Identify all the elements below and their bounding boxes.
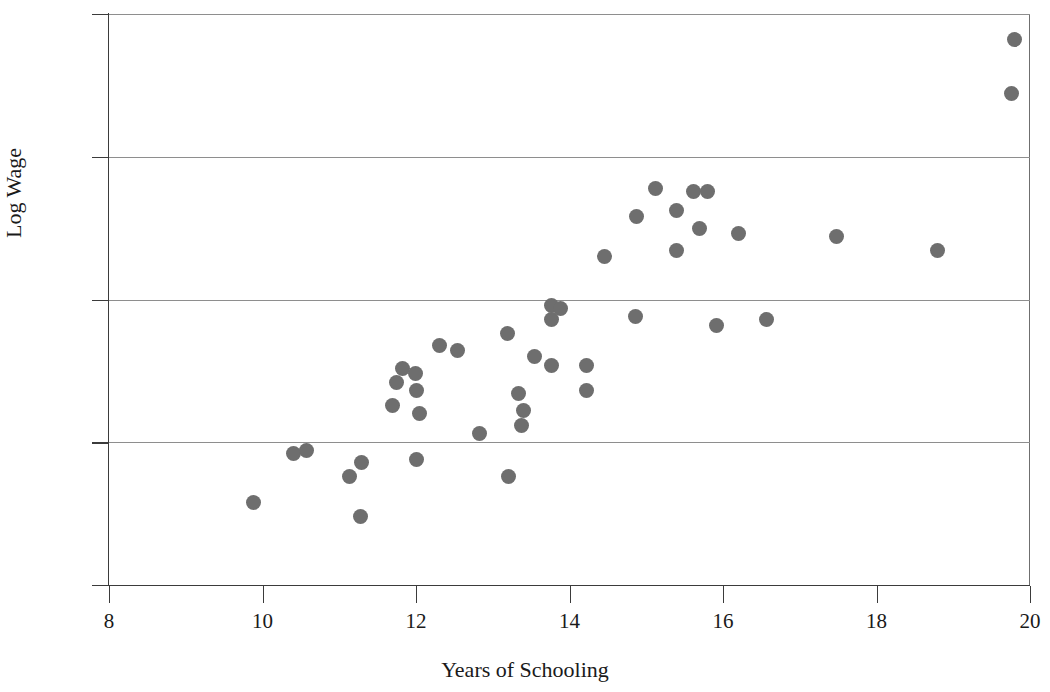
x-axis-tick xyxy=(570,586,571,603)
data-point xyxy=(516,403,531,418)
x-axis-tick xyxy=(723,586,724,603)
data-point xyxy=(759,312,774,327)
data-point xyxy=(544,358,559,373)
data-point xyxy=(342,469,357,484)
data-point xyxy=(500,326,515,341)
data-point xyxy=(472,426,487,441)
data-point xyxy=(354,455,369,470)
data-point xyxy=(629,209,644,224)
x-axis-tick xyxy=(877,586,878,603)
x-axis-tick-label: 14 xyxy=(540,611,600,632)
data-point xyxy=(385,398,400,413)
scatter-plot-figure: 22.533.54 8101214161820 Log Wage Years o… xyxy=(0,0,1050,692)
data-point xyxy=(628,309,643,324)
data-point xyxy=(353,509,368,524)
data-point xyxy=(692,221,707,236)
data-point xyxy=(450,343,465,358)
data-point xyxy=(597,249,612,264)
data-point xyxy=(930,243,945,258)
x-axis-tick-label: 10 xyxy=(233,611,293,632)
data-point xyxy=(1004,86,1019,101)
data-point xyxy=(299,443,314,458)
y-axis-tick xyxy=(92,300,109,301)
x-axis-tick xyxy=(109,586,110,603)
data-point xyxy=(686,184,701,199)
y-axis-tick xyxy=(92,14,109,15)
gridline xyxy=(109,300,1030,301)
gridline xyxy=(109,14,1030,15)
y-axis-tick xyxy=(92,442,109,443)
data-point xyxy=(648,181,663,196)
data-point xyxy=(527,349,542,364)
data-point xyxy=(432,338,447,353)
data-point xyxy=(579,383,594,398)
plot-area xyxy=(109,14,1030,585)
x-axis-tick xyxy=(416,586,417,603)
y-axis-tick xyxy=(92,157,109,158)
x-axis-tick-label: 16 xyxy=(693,611,753,632)
data-point xyxy=(389,375,404,390)
x-axis-tick-label: 12 xyxy=(386,611,446,632)
gridline xyxy=(109,442,1030,443)
gridline xyxy=(109,157,1030,158)
data-point xyxy=(669,243,684,258)
data-point xyxy=(409,383,424,398)
data-point xyxy=(1007,32,1022,47)
y-axis-tick xyxy=(92,585,109,586)
x-axis-tick-label: 20 xyxy=(1000,611,1050,632)
x-axis-tick-label: 18 xyxy=(847,611,907,632)
data-point xyxy=(669,203,684,218)
x-axis-tick xyxy=(263,586,264,603)
data-point xyxy=(246,495,261,510)
data-point xyxy=(579,358,594,373)
data-point xyxy=(700,184,715,199)
data-point xyxy=(409,452,424,467)
data-point xyxy=(731,226,746,241)
data-point xyxy=(514,418,529,433)
x-axis-label: Years of Schooling xyxy=(0,659,1050,681)
data-point xyxy=(501,469,516,484)
x-axis-tick-label: 8 xyxy=(79,611,139,632)
data-point xyxy=(511,386,526,401)
y-axis-label: Log Wage xyxy=(3,148,25,238)
data-point xyxy=(408,366,423,381)
data-point xyxy=(553,301,568,316)
data-point xyxy=(709,318,724,333)
data-point xyxy=(412,406,427,421)
x-axis-tick xyxy=(1030,586,1031,603)
data-point xyxy=(829,229,844,244)
